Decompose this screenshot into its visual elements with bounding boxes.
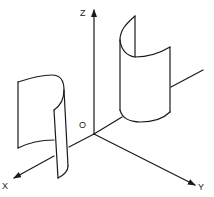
diagram-canvas: Z O X Y — [0, 0, 214, 197]
origin-label: O — [79, 121, 86, 130]
z-axis-label: Z — [80, 9, 86, 18]
y-axis — [94, 134, 195, 185]
axis-extension-right — [171, 70, 203, 87]
x-axis — [14, 156, 54, 178]
right-curved-surface — [120, 16, 170, 122]
y-axis-label: Y — [198, 183, 204, 192]
x-axis-label: X — [2, 182, 8, 191]
x-axis-segment — [69, 134, 94, 147]
axes-diagram — [0, 0, 214, 197]
axis-extension-back — [94, 117, 122, 134]
